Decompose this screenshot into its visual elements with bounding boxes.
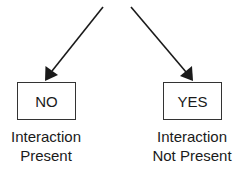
- no-caption-line1: Interaction: [0, 127, 96, 146]
- yes-caption-line1: Interaction: [142, 127, 241, 146]
- no-box: NO: [17, 82, 76, 120]
- yes-box-label: YES: [177, 93, 207, 110]
- yes-caption: Interaction Not Present: [142, 127, 241, 165]
- no-caption-line2: Present: [0, 146, 96, 165]
- arrow-left: [45, 7, 103, 81]
- arrow-right: [131, 7, 193, 81]
- yes-box: YES: [163, 82, 222, 120]
- no-caption: Interaction Present: [0, 127, 96, 165]
- yes-caption-line2: Not Present: [142, 146, 241, 165]
- no-box-label: NO: [35, 93, 58, 110]
- arrowhead-left-icon: [45, 66, 58, 81]
